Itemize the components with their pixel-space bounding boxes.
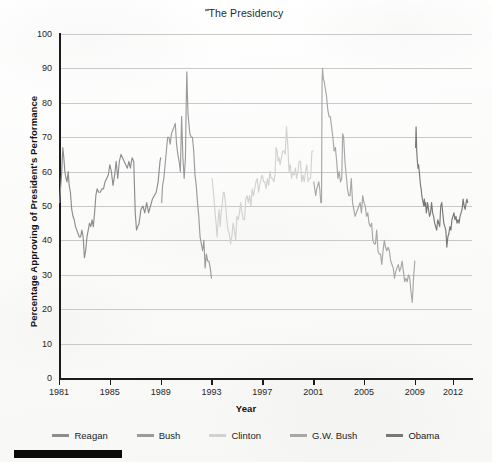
y-tick-label: 100 (18, 29, 52, 39)
chart-legend: ReaganBushClintonG.W. BushObama (0, 430, 492, 441)
x-tick-mark (110, 379, 111, 385)
x-tick-mark (453, 379, 454, 385)
legend-item[interactable]: Clinton (209, 430, 261, 441)
x-tick-mark (262, 379, 263, 385)
x-tick-mark (211, 379, 212, 385)
x-tick-label: 1997 (252, 387, 272, 397)
legend-color-swatch (290, 434, 307, 437)
legend-label: Bush (159, 430, 181, 441)
y-tick-label: 20 (18, 304, 52, 314)
x-tick-label: 1981 (49, 387, 69, 397)
y-tick-label: 50 (18, 201, 52, 211)
y-tick-label: 90 (18, 63, 52, 73)
legend-item[interactable]: Obama (386, 430, 439, 441)
legend-label: Obama (408, 430, 439, 441)
x-axis-title: Year (0, 403, 492, 414)
y-tick-label: 0 (18, 373, 52, 383)
legend-color-swatch (209, 434, 226, 437)
x-tick-mark (161, 379, 162, 385)
series-line (162, 72, 212, 278)
chart-root: The Presidency Percentage Approving of P… (0, 0, 492, 462)
x-tick-label: 1985 (100, 387, 120, 397)
x-tick-label: 2005 (354, 387, 374, 397)
y-tick-label: 70 (18, 132, 52, 142)
legend-color-swatch (52, 434, 69, 437)
legend-label: G.W. Bush (312, 430, 357, 441)
y-tick-label: 60 (18, 167, 52, 177)
scan-artifact-bar (14, 450, 122, 458)
y-tick-label: 30 (18, 270, 52, 280)
legend-item[interactable]: Reagan (52, 430, 107, 441)
x-tick-label: 2001 (303, 387, 323, 397)
legend-item[interactable]: Bush (137, 430, 181, 441)
legend-color-swatch (386, 434, 403, 437)
x-tick-label: 1993 (201, 387, 221, 397)
legend-color-swatch (137, 434, 154, 437)
series-line (314, 68, 415, 302)
legend-label: Reagan (74, 430, 107, 441)
chart-title: The Presidency (0, 7, 492, 19)
series-line (212, 127, 313, 244)
x-axis-line (59, 378, 473, 380)
x-tick-label: 2012 (443, 387, 463, 397)
series-line (60, 148, 161, 258)
series-lines (59, 34, 472, 378)
series-line (416, 127, 468, 247)
y-axis-title: Percentage Approving of President's Perf… (28, 87, 39, 337)
legend-label: Clinton (231, 430, 261, 441)
x-tick-label: 1989 (151, 387, 171, 397)
x-tick-mark (313, 379, 314, 385)
x-tick-mark (364, 379, 365, 385)
y-tick-label: 80 (18, 98, 52, 108)
y-tick-label: 10 (18, 339, 52, 349)
legend-item[interactable]: G.W. Bush (290, 430, 357, 441)
x-tick-mark (415, 379, 416, 385)
y-tick-label: 40 (18, 235, 52, 245)
x-tick-mark (59, 379, 60, 385)
x-tick-label: 2009 (405, 387, 425, 397)
